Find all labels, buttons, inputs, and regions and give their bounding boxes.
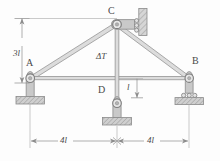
dimension-label-span-right: 4l [147, 136, 154, 145]
dimension-label-3l: 3l [13, 49, 20, 58]
truss-diagram-canvas [0, 0, 220, 161]
dimension-label-span-left: 4l [60, 136, 67, 145]
joint-label-b: B [192, 56, 199, 66]
member-a-b [30, 76, 190, 79]
truss-diagram: A B C D ΔT 3l l 4l 4l [0, 0, 220, 161]
thermal-load-label: ΔT [96, 52, 106, 61]
dimension-label-l: l [127, 83, 130, 92]
dimension-spans [30, 104, 189, 148]
support-d-pin [103, 97, 132, 125]
member-c-b [115, 22, 189, 79]
joint-label-c: C [108, 6, 115, 16]
joint-label-a: A [26, 58, 33, 68]
truss-members [30, 22, 190, 103]
dimension-offset-l [119, 79, 143, 98]
member-c-d [115, 24, 119, 103]
joint-label-d: D [98, 85, 105, 95]
